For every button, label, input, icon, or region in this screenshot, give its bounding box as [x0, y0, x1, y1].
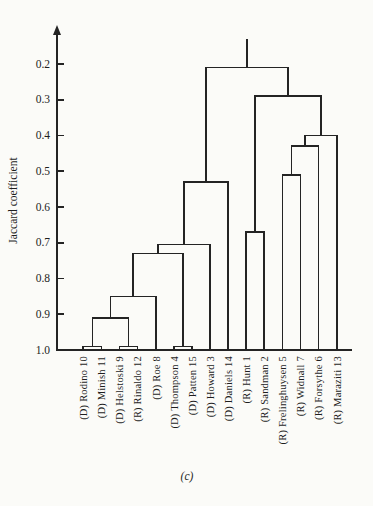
dendrogram-link [183, 182, 185, 245]
leaf-label: (R) Maraziti 13 [332, 356, 343, 424]
y-tick [57, 135, 64, 137]
dendrogram-link [254, 96, 256, 233]
leaf-label: (D) Roe 8 [151, 356, 162, 400]
leaf-label: (R) Frelinghuysen 5 [277, 356, 288, 444]
dendrogram-link [336, 136, 338, 351]
leaf-label: (D) Rodino 10 [78, 356, 89, 420]
leaf-label: (D) Helstoski 9 [114, 356, 125, 424]
dendrogram-link [205, 68, 207, 183]
y-tick-label: 1.0 [18, 344, 50, 357]
y-tick [57, 170, 64, 172]
dendrogram-link [263, 232, 265, 351]
dendrogram-link [182, 253, 184, 347]
leaf-label: (D) Daniels 14 [223, 356, 234, 421]
y-tick-label: 0.9 [18, 308, 50, 321]
leaf-label: (R) Hunt 1 [241, 356, 252, 404]
y-tick-label: 0.7 [18, 236, 50, 249]
leaf-label: (R) Widnall 7 [295, 356, 306, 416]
dendrogram-link [110, 296, 112, 318]
dendrogram-link [128, 318, 130, 347]
y-tick-label: 0.8 [18, 272, 50, 285]
y-tick-label: 0.6 [18, 201, 50, 214]
leaf-label: (D) Minish 11 [96, 356, 107, 418]
dendrogram-figure: Jaccard coefficient 0.20.30.40.50.60.70.… [0, 0, 373, 506]
y-tick-label: 0.5 [18, 165, 50, 178]
dendrogram-link [132, 253, 134, 297]
y-tick [57, 63, 64, 65]
y-tick-label: 0.2 [18, 58, 50, 71]
dendrogram-link [320, 96, 322, 136]
figure-caption: (c) [147, 470, 227, 482]
y-tick-label: 0.3 [18, 93, 50, 106]
y-tick [57, 242, 64, 244]
y-tick [57, 99, 64, 101]
dendrogram-link [304, 136, 306, 148]
leaf-label: (D) Howard 3 [205, 356, 216, 417]
dendrogram-link [287, 68, 289, 97]
dendrogram-link [227, 182, 229, 351]
dendrogram-root-stub [246, 39, 248, 68]
leaf-label: (D) Thompson 4 [169, 356, 180, 429]
dendrogram-link [300, 175, 302, 351]
leaf-label: (D) Patten 15 [187, 356, 198, 415]
dendrogram-link [245, 232, 247, 351]
y-tick [57, 278, 64, 280]
dendrogram-link [157, 245, 159, 255]
y-tick-label: 0.4 [18, 129, 50, 142]
dendrogram-link [291, 146, 293, 175]
y-tick [57, 313, 64, 315]
dendrogram-link [282, 175, 284, 351]
leaf-label: (R) Rinaldo 12 [132, 356, 143, 422]
leaf-label: (R) Forsythe 6 [313, 356, 324, 420]
dendrogram-link [92, 318, 94, 347]
dendrogram-link [318, 146, 320, 351]
dendrogram-link [155, 296, 157, 350]
y-axis-line [56, 33, 58, 350]
leaf-label: (R) Sandman 2 [259, 356, 270, 422]
dendrogram-link [209, 245, 211, 351]
y-tick [57, 206, 64, 208]
